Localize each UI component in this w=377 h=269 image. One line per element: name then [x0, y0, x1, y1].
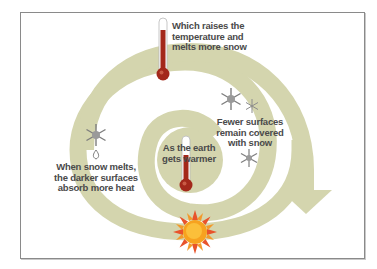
snowflake-icon: [222, 88, 241, 110]
label-line: absorb more heat: [52, 183, 140, 194]
label-line: When snow melts,: [52, 162, 140, 173]
step-fewer-surfaces-label: Fewer surfaces remain covered with snow: [213, 117, 287, 149]
label-line: gets warmer: [160, 154, 218, 165]
step-raises-temp-label: Which raises the temperature and melts m…: [172, 21, 247, 53]
label-line: As the earth: [160, 143, 218, 154]
sun-icon: [173, 210, 217, 254]
snowflake-icon: [241, 149, 257, 167]
step-start-label: As the earth gets warmer: [160, 143, 218, 164]
label-line: Which raises the: [172, 21, 247, 32]
label-line: melts more snow: [172, 42, 247, 53]
label-line: Fewer surfaces: [213, 117, 287, 128]
label-line: with snow: [213, 138, 287, 149]
step-darker-surfaces-label: When snow melts, the darker surfaces abs…: [52, 162, 140, 194]
